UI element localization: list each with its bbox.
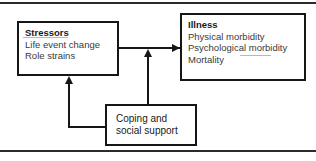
connector-coping-to-stressors-vertical <box>68 84 70 127</box>
node-stressors: Stressors Life event change Role strains <box>17 21 119 76</box>
scan-artifact-underline-psychological <box>240 55 271 56</box>
node-stressors-line-2: Role strains <box>25 50 117 62</box>
connector-coping-to-illness-path-line <box>147 57 149 104</box>
scan-artifact-underline-stressors <box>23 37 68 38</box>
connector-coping-to-stressors-horizontal <box>68 126 105 128</box>
node-illness-line-1: Physical morbidity <box>188 31 304 43</box>
arrowhead-coping-to-stressors <box>65 76 73 84</box>
node-illness-line-2: Psychological morbidity <box>188 42 304 54</box>
node-coping-social-support: Coping and social support <box>105 104 197 146</box>
stress-process-diagram: Stressors Life event change Role strains… <box>0 0 316 161</box>
node-coping-line-1: Coping and <box>116 113 195 126</box>
arrowhead-stressors-to-illness <box>172 44 180 52</box>
node-illness: Illness Physical morbidity Psychological… <box>180 13 306 81</box>
node-stressors-line-1: Life event change <box>25 39 117 51</box>
frame-rule-top <box>0 2 316 4</box>
frame-rule-bottom <box>0 150 316 152</box>
arrowhead-coping-to-illness-path <box>144 49 152 57</box>
node-illness-title: Illness <box>188 19 304 31</box>
node-coping-line-2: social support <box>116 125 195 138</box>
